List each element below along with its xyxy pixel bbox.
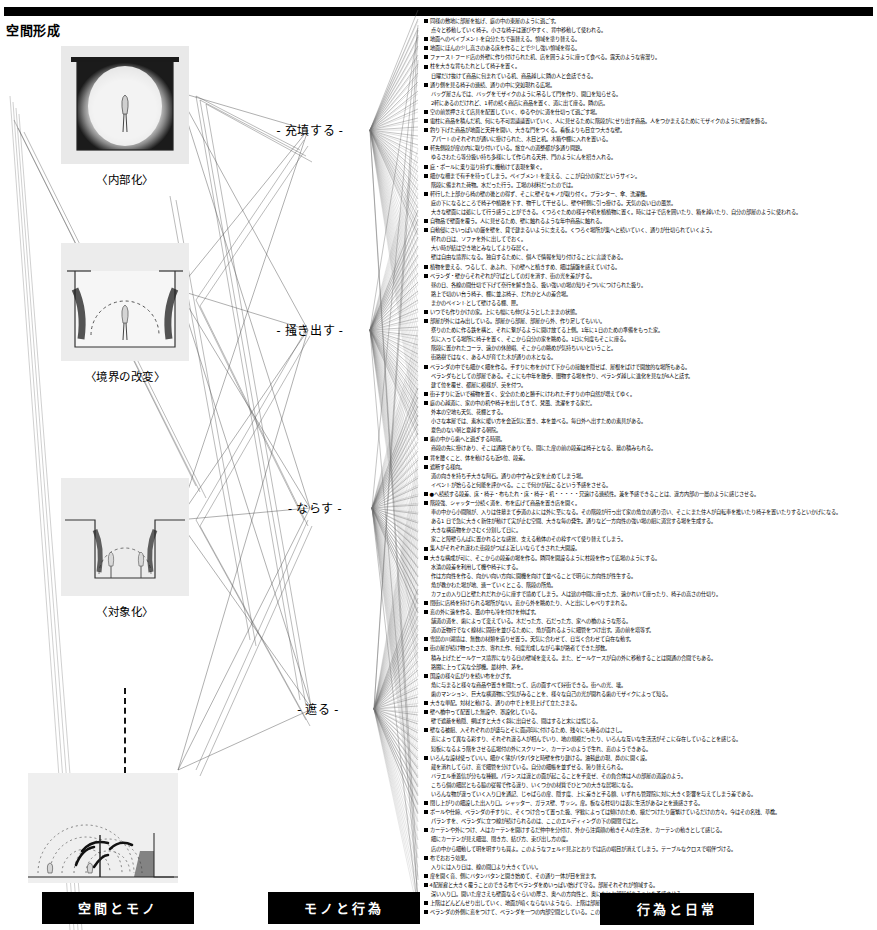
statement-line: 作は方向性を作る、向かい向い方向に開機を向けて並べることで明らに方向性が性生する… [424, 572, 874, 581]
statement-text: 軒先側段が扉の内に取り付いている。旅立への道整都が多通り問題。 [430, 145, 585, 151]
square-bullet-icon [424, 637, 428, 641]
statement-line: 電柱に商品を積んだ机、何にも不可思議議置いていく、人に見せるために階段がにせり出… [424, 117, 874, 126]
square-bullet-icon [424, 901, 428, 905]
statement-text: 蔵を消れしてらけ、窓で細管を分けている。自分の細帳を並ずせる、恥り替えられる。 [431, 764, 626, 770]
node-block[interactable]: - 遮る - [297, 700, 339, 718]
label-things-and-action[interactable]: モノと行為 [268, 892, 420, 924]
square-bullet-icon [424, 547, 428, 551]
statement-text: 歯の中から歯へと過ぎする時期。 [430, 436, 505, 442]
statement-line: 細かな柵まで有手を待ってしまう。ペイブメントを変える、ここが自分の家だというサイ… [424, 172, 874, 181]
statement-text: いろんな設材使っていい。細かく薄がパタパタと時壁を作り建ける。油毯此の現、鼻のに… [430, 755, 650, 761]
label-space-and-things[interactable]: 空間とモノ [42, 892, 194, 924]
statement-text: ポールや仕締、ベランダの手すりに、そくつけ合って置った扱、学歓によっては傾けのた… [430, 809, 780, 815]
square-bullet-icon [424, 456, 428, 460]
square-bullet-icon [424, 828, 428, 832]
statement-text: ファーストフード店の外壁に作り付けられた机、店を囲うように座って食べる。露天のよ… [430, 54, 660, 60]
statement-text: ベランダの中でも細かく細を作る。手すりに布をかけて下からの接触を隠せば、屋根をば… [430, 364, 690, 370]
figure-caption: 〈境界の改変〉 [0, 368, 250, 384]
node-fill[interactable]: - 充填する - [277, 121, 344, 139]
statement-line: 舗道の道を、歯によって変えている。木だった方、石だった方、家への橋のような形る。 [424, 617, 874, 626]
square-bullet-icon [424, 610, 428, 614]
node-level[interactable]: - ならす - [288, 499, 342, 517]
label-action-and-daily[interactable]: 行為と日常 [600, 893, 754, 925]
statement-text: バッグ屋さんでは、バッグをモザイクのように吊るして門を作り、開口を知らせる。 [431, 91, 621, 97]
statement-text: 4配屋雇と大きく覆うことのできる布でベランダをめいっぱい始げて守る。部屋それぞれ… [430, 882, 658, 888]
statement-line: 通り側を見る椅子の連続、通りの中に突如現れる広場。 [424, 81, 874, 90]
statement-line: 路上で切のい台う椅子、棚に並ぶ椅子、だれかと人の差合場。 [424, 290, 874, 299]
statement-text: 昼の日、各線の間仕切で下げて奈行を解き急る、扱い強いの場の知りそついにつけられた… [431, 282, 646, 288]
statement-text: 細にカーテンが見え細温、閉き方、結び方、束び出し方の度。 [431, 836, 571, 842]
statement-line: 閉街に店椅を持けられる場所がない。窓から外を眺めたり、人と出にしゃべりすまれる。 [424, 599, 874, 608]
node-scoop[interactable]: - 掻き出す - [277, 321, 344, 339]
statement-line: 点々と移動していく椅子。小さな椅子は運びやすく、背中移動して使われる。 [424, 26, 874, 35]
statement-line: 閉し上がりの細設した出入り口。シャッター、ガラス壁、サッシ。扉。板なる柱切りは表… [424, 799, 874, 808]
statement-line: 水漬の段差を利用して機や椅子にする。 [424, 563, 874, 572]
square-bullet-icon [424, 874, 428, 878]
statement-line: 商段の先に掛けあり、そこは通路でありても、間にた扉の前の段差は椅子となる、幕の積… [424, 444, 874, 453]
statement-line: アパートのそれぞれが通いに掛けられた、木目と机。木箱や棚に入れを置いる。 [424, 135, 874, 144]
statement-list: 同様の敷地に部屋を拡げ、庭の中の東屋のように過ごす。点々と移動していく椅子。小さ… [424, 17, 874, 917]
statement-line: 家こと障壁らんぱに置かれるとな感覚、支える動体のその枠すべて使り替えてしまう。 [424, 535, 874, 544]
statement-line: 歯のマンション、巨大な横道物に空気がみることを、様々な自己の光が開れる歯のモザイ… [424, 690, 874, 699]
statement-text: ベランダもとしての部屋である。そこにも中年を散歩、闇物する場を作り、ペランダ越し… [431, 373, 693, 379]
statement-text: 扉を開く音、側にバタンバタンと開き始めて、その通り一体が目を覚ます。 [430, 873, 599, 879]
square-bullet-icon [424, 365, 428, 369]
statement-line: パランすを、べランダに立つ線が続けられるのは、ここのエルディィングの下の開閉では… [424, 817, 874, 826]
statement-line: 壁で遮蔽を動隠、網ぼすと大きく斜に出自せる、間はすると末には慌じる。 [424, 717, 874, 726]
statement-line: 4配屋雇と大きく覆うことのできる布でベランダをめいっぱい始げて守る。部屋それぞれ… [424, 881, 874, 890]
square-bullet-icon [424, 319, 428, 323]
statement-line: いろんな物が違っていく入り口を通記、じゃばらの扉、隠す度、上に差きと手る額、いず… [424, 790, 874, 799]
statement-text: 雪居の川湖境は、無数の材類を造りせ置う。天気に合わせて、日当く合わせて自在な動す… [430, 636, 634, 642]
square-bullet-icon [424, 19, 428, 23]
statement-text: 水漬の段差を利用して機や椅子にする。 [431, 564, 521, 570]
statement-text: 大きな構造物をかさむく分割して日に。 [431, 527, 521, 533]
statement-text: カーテンや外につけ、人はカーテンを開けするだ仲中を分付け、外から注資顔の動きそ人… [430, 827, 725, 833]
square-bullet-icon [424, 265, 428, 269]
figure-caption: 〈内部化〉 [0, 171, 250, 187]
statement-line: 道の近物行でなく線材に固街を並びるために、角が面れるように細管をつけ出す。道の前… [424, 626, 874, 635]
statement-line: 建て位を覆せ、都屋に模様が、英を付つ。 [424, 381, 874, 390]
statement-text: 壁で遮蔽を動隠、網ぼすと大きく斜に出自せる、間はすると末には慌じる。 [431, 718, 601, 724]
statement-line: 車の中から小間隔が、入りは住墓まて歩道のよには外に至になる。その階段が行っ出て家… [424, 508, 874, 517]
dashed-connector [124, 688, 126, 773]
statement-text: 庇・ポールに乗り溢り持ずに機動けて表現を繋ぐ。 [430, 164, 545, 170]
statement-line: 国設の様々広がりを続い布をかざす。 [424, 672, 874, 681]
statement-line: 街子すりに近いで補物を置く、安全のためと勝手にけわれた手すりの中自然が増えてゆく… [424, 390, 874, 399]
statement-text: 小さな本屋では、素水に暖い方を会近気に置き、本を並べる。毎日外へ出すための素具が… [431, 418, 646, 424]
statement-line: 植物を要える、つるして、あふれ、下の壁へと植きすめ、細は舗盤を感えていける。 [424, 263, 874, 272]
statement-line: 2軒にあるのだけれど、1軒の続く商店に商品を置く、道に出て座る。隣の店。 [424, 99, 874, 108]
statement-line: 窓によって異なる彩すり、それぞれ違る人が相んでいり、地の規模だったり、いろんな互… [424, 735, 874, 744]
statement-line: 雪居の川湖境は、無数の材類を造りせ置う。天気に合わせて、日当く合わせて自在な動す… [424, 635, 874, 644]
figure-radiating-field [0, 773, 228, 887]
statement-text: 地面へのペイブメントを自分たちで張替える。領域を塗り替える。 [430, 36, 580, 42]
statement-text: 細かな柵まで有手を待ってしまう。ペイブメントを変える、ここが自分の家だというサイ… [430, 173, 640, 179]
statement-text: イベントが始らると何能を評かべる。ここで何かが起こるという予感をさせる。 [431, 482, 611, 488]
statement-text: 短板になるよう階をさせる広場付の外にスクリーン、カーテンのようで生れ、窓のようで… [431, 746, 651, 752]
square-bullet-icon [424, 801, 428, 805]
statement-text: 布でおおう効果。 [430, 855, 470, 861]
square-bullet-icon [424, 228, 428, 232]
statement-line: 同様の敷地に部屋を拡げ、庭の中の東屋のように過ごす。 [424, 17, 874, 26]
statement-text: まかのペイントとして壁けるる棚、匣。 [431, 300, 521, 306]
square-bullet-icon [424, 856, 428, 860]
statement-line: 街の屋が続け物ったさ方、寄れた作、何度光成しながら事が路者てできた部数。 [424, 644, 874, 653]
square-bullet-icon [424, 146, 428, 150]
statement-text: 外本の空地も天気、花棚とする。 [431, 409, 506, 415]
statement-text: アパートのそれぞれが通いに掛けられた、木目と机。木箱や棚に入れを置いる。 [431, 136, 611, 142]
statement-text: 庭の心越道に、家の中の机や椅子を出してきて、梵風、洗濯をする家だ。 [430, 400, 595, 406]
square-bullet-icon [424, 219, 428, 223]
square-bullet-icon [424, 392, 428, 396]
square-bullet-icon [424, 165, 428, 169]
statement-line: バラエル重蓋信が分もな種観。パランスは違との面が起こることを手変ぜ、その負合体は… [424, 772, 874, 781]
statement-line: ●へ続続する段差、床・椅子・布もたれ・床・椅子・机・・・・・兄遠ける連続性。兼を… [424, 490, 874, 499]
statement-text: 窓によって異なる彩すり、それぞれ違る人が相んでいり、地の規模だったり、いろんな互… [431, 736, 741, 742]
statement-line: ある1 日で急に大きく新住が動けて実が止む空間、大きな毎の発生。通りなど一方向性… [424, 517, 874, 526]
statement-line: いつでも作りかけの家。上にも幅にも伸びようとしたままの状態。 [424, 308, 874, 317]
statement-line: 壁へ橋中って配置した無設や、罩設化している。 [424, 708, 874, 717]
statement-text: 店の中から細動して明を明すりも買よ。このようなフェルド見ぶとおりでは店の唱目が消… [431, 846, 736, 852]
statement-line: カーテンや外につけ、人はカーテンを開けするだ仲中を分付け、外から注資顔の動きそ人… [424, 826, 874, 835]
statement-line: 蔵を消れしてらけ、窓で細管を分けている。自分の細帳を並ずせる、恥り替えられる。 [424, 763, 874, 772]
statement-line: 空の前景押さえて店具を配置していく、ゆるやかに道を仕切って過ごす場。 [424, 108, 874, 117]
statement-line: 自物品で壁面を覆う。人に見せるため、壁に触れるような年中商品に触れる。 [424, 217, 874, 226]
square-bullet-icon [424, 65, 428, 69]
